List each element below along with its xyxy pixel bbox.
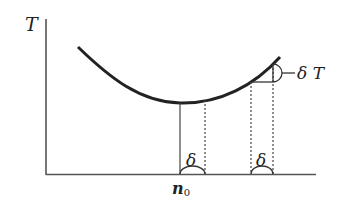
delta-right-label: δ xyxy=(256,150,266,170)
delta-T-label: δ T xyxy=(297,63,326,83)
y-axis-label: T xyxy=(25,13,39,35)
delta-left-label: δ xyxy=(186,150,196,170)
n0-label-subscript: 0 xyxy=(184,187,190,198)
n0-label-main: n xyxy=(172,179,184,198)
temperature-curve-diagram: T δ T δ δ n0 xyxy=(0,0,353,207)
n0-label: n0 xyxy=(172,179,190,198)
delta-T-brace xyxy=(273,64,282,82)
curve xyxy=(78,47,280,103)
